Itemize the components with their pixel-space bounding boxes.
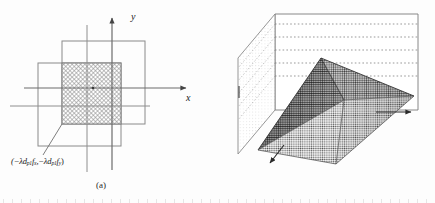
coord-close: )	[61, 156, 64, 166]
axis-x-label: x	[186, 93, 190, 103]
coord-open: (−λd	[11, 156, 27, 166]
panel-a-caption: (a)	[96, 180, 106, 190]
scan-artifact	[0, 199, 435, 203]
coord-mid: ,−λd	[36, 156, 51, 166]
axis-y-label: y	[131, 12, 135, 22]
panel-a: x y (−λdp1fx,−λdp1fy) (a)	[0, 0, 218, 203]
origin-point	[92, 87, 95, 90]
panel-b: H0(fx, fy) 1 fx/fCx fy/fCy (2,2) (b)	[218, 0, 435, 203]
coordinate-annotation: (−λdp1fx,−λdp1fy)	[11, 157, 64, 167]
figure-root: x y (−λdp1fx,−λdp1fy) (a)	[0, 0, 435, 203]
panel-b-graphic	[218, 0, 435, 203]
leader-line	[43, 124, 62, 155]
